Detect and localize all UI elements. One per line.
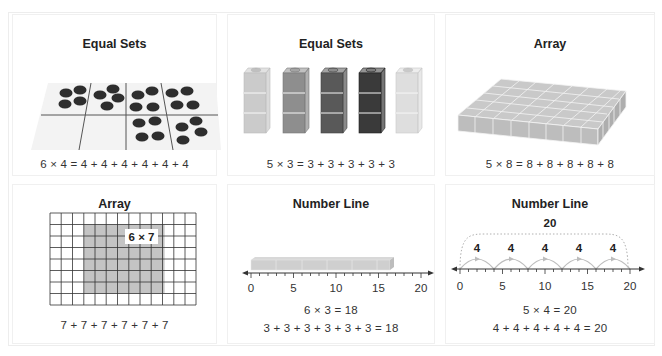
tick-label-15: 15 — [578, 280, 598, 292]
array-slab-illustration — [446, 63, 656, 153]
equation-product: 5 × 4 = 20 — [446, 304, 654, 316]
panel-equal-sets-counters: Equal Sets 6 × 4 = 4 + 4 + 4 + 4 + 4 + 4 — [12, 14, 217, 176]
equation: 6 × 4 = 4 + 4 + 4 + 4 + 4 + 4 — [13, 158, 216, 170]
panel-title: Number Line — [446, 197, 654, 211]
array-grid-illustration — [50, 213, 200, 307]
panel-title: Array — [13, 197, 216, 211]
tick-label-0: 0 — [450, 280, 470, 292]
panel-number-line-jumps: Number Line 20 — [445, 184, 655, 344]
counters-tray-illustration — [13, 65, 218, 155]
tick-label-10: 10 — [326, 282, 346, 294]
panel-title: Array — [446, 37, 654, 51]
array-label: 6 × 7 — [125, 231, 158, 243]
tick-label-5: 5 — [284, 282, 304, 294]
tick-label-20: 20 — [620, 280, 640, 292]
tick-label-5: 5 — [493, 280, 513, 292]
equation: 5 × 3 = 3 + 3 + 3 + 3 + 3 — [228, 158, 434, 170]
jump-label-5: 4 — [603, 242, 623, 254]
jump-label-3: 4 — [535, 242, 555, 254]
equation-product: 6 × 3 = 18 — [228, 304, 434, 316]
panel-array-grid: Array 6 × 7 7 + 7 + 7 + 7 + 7 + 7 — [12, 184, 217, 344]
panel-equal-sets-cubes: Equal Sets 5 × 3 = 3 + 3 + 3 + 3 + 3 — [227, 14, 435, 176]
panel-title: Equal Sets — [228, 37, 434, 51]
total-label: 20 — [446, 217, 654, 229]
equation: 7 + 7 + 7 + 7 + 7 + 7 — [13, 319, 216, 331]
equation: 5 × 8 = 8 + 8 + 8 + 8 + 8 — [446, 158, 654, 170]
number-line-bar-illustration — [228, 247, 436, 307]
panel-number-line-cubes: Number Line 0 5 10 15 20 6 × 3 = 1 — [227, 184, 435, 344]
jump-label-4: 4 — [569, 242, 589, 254]
tick-label-20: 20 — [411, 282, 431, 294]
panel-title: Number Line — [228, 197, 434, 211]
cube-towers-illustration — [228, 63, 436, 143]
panel-array-slab: Array 5 × 8 = 8 + 8 + 8 + 8 + 8 — [445, 14, 655, 176]
tick-label-10: 10 — [535, 280, 555, 292]
equation-sum: 4 + 4 + 4 + 4 + 4 = 20 — [446, 322, 654, 334]
tick-label-15: 15 — [369, 282, 389, 294]
panel-title: Equal Sets — [13, 37, 216, 51]
equation-sum: 3 + 3 + 3 + 3 + 3 + 3 = 18 — [228, 322, 434, 334]
jump-label-1: 4 — [467, 242, 487, 254]
jump-label-2: 4 — [501, 242, 521, 254]
tick-label-0: 0 — [241, 282, 261, 294]
